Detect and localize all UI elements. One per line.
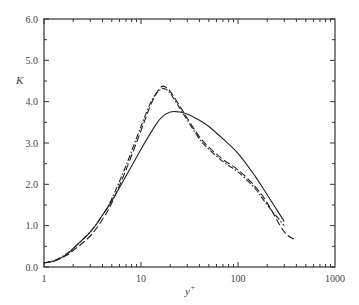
x-axis-label: y+ [184,283,195,297]
series-line-solid [44,111,284,262]
y-axis-label: K [15,74,24,86]
y-tick-label: 5.0 [26,55,39,66]
data-series [44,86,296,263]
series-line-dash-dot [44,88,284,263]
y-tick-label: 4.0 [26,96,39,107]
x-tick-label: 10 [136,273,146,284]
x-axis-ticks: 1101001000 [42,19,346,284]
plot-frame [44,19,335,267]
y-tick-label: 0.0 [26,262,39,273]
y-tick-label: 2.0 [26,179,39,190]
y-axis-ticks: 0.01.02.03.04.05.06.0 [26,14,336,273]
x-tick-label: 1 [42,273,47,284]
y-tick-label: 3.0 [26,138,39,149]
y-tick-label: 6.0 [26,14,39,25]
line-chart: 1101001000 0.01.02.03.04.05.06.0 K y+ [0,0,359,305]
x-tick-label: 1000 [325,273,345,284]
y-tick-label: 1.0 [26,220,39,231]
x-tick-label: 100 [231,273,246,284]
